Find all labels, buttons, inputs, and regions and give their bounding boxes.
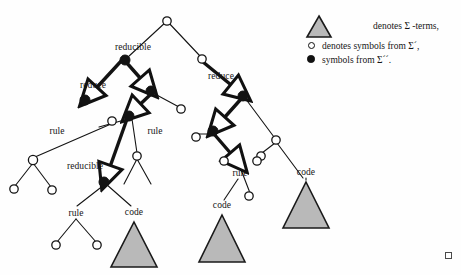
node-open [253,157,261,165]
node-open [220,157,228,165]
sigma-term-triangle [111,222,157,267]
legend-row-filled-circle: symbols from Σ´´. [305,54,457,68]
node-label-reducible: reducible [67,161,103,171]
filled-circle-icon [305,54,317,68]
node-label-rule: rule [68,208,83,218]
node-open [133,152,141,160]
node-label-code: code [297,167,315,177]
legend: denotes symbols from Σ´, symbols from Σ´… [305,40,457,67]
sigma-term-triangle [199,215,245,262]
node-label-rule: rule [232,168,247,178]
node-open [245,192,253,200]
node-filled [124,111,134,121]
node-open [93,241,101,249]
node-label-reducible: reducible [115,42,151,52]
node-open [10,185,18,193]
sigma-term-triangles [111,182,329,267]
legend-text-sigma-double-prime: symbols from Σ´´. [322,54,391,68]
node-open [192,133,200,141]
node-open [108,117,116,125]
node-open [177,105,185,113]
node-open [198,55,206,63]
node-filled [208,126,218,136]
open-circle-icon [305,40,317,54]
node-open [52,241,60,249]
sigma-term-triangle [283,182,329,228]
node-open [28,155,37,164]
node-filled [120,55,130,65]
node-filled [238,91,248,101]
node-label-reduce: reduce [80,80,106,90]
node-label-reduce: reduce [208,71,234,81]
node-filled [146,86,156,96]
node-filled [99,177,109,187]
legend-text-sigma-prime: denotes symbols from Σ´, [322,40,419,54]
node-filled [80,95,90,105]
legend-triangle-icon [305,14,335,40]
node-label-rule: rule [147,126,162,136]
figure-root: reducible reduce reduce rule rule rule r… [0,0,461,275]
node-open [272,136,280,144]
legend-row-sigma-terms: denotes Σ -terms, [373,21,439,31]
legend-row-open-circle: denotes symbols from Σ´, [305,40,457,54]
node-label-code: code [125,207,143,217]
node-open [163,17,171,25]
node-label-rule: rule [49,126,64,136]
node-label-code: code [213,200,231,210]
qed-square-icon [445,252,452,259]
node-open [48,186,56,194]
